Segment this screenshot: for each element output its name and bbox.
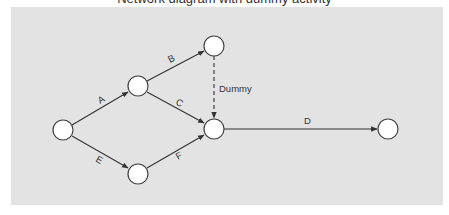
label-dummy: Dummy — [219, 83, 252, 94]
node-5 — [128, 164, 148, 184]
node-3 — [204, 36, 224, 56]
node-2 — [128, 76, 148, 96]
edge-b — [147, 51, 204, 81]
node-4 — [204, 119, 224, 139]
label-e: E — [94, 153, 105, 166]
network-diagram: A B C Dummy D E F — [0, 0, 449, 215]
label-b: B — [166, 52, 177, 65]
edge-c — [147, 92, 204, 123]
node-6 — [378, 119, 398, 139]
label-a: A — [96, 93, 108, 106]
label-f: F — [174, 149, 185, 162]
node-1 — [53, 120, 73, 140]
label-d: D — [304, 115, 311, 126]
